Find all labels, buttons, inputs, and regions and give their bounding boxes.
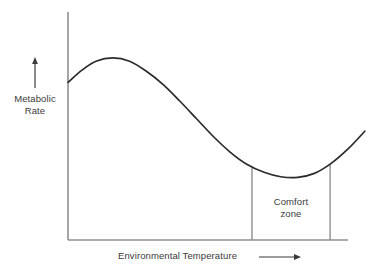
- arrow-right-icon: [259, 254, 301, 260]
- metabolic-rate-curve: [68, 58, 365, 178]
- y-axis-label: Metabolic Rate: [4, 93, 66, 116]
- comfort-zone-label-line2: zone: [252, 208, 330, 220]
- metabolic-rate-chart: Metabolic Rate Environmental Temperature…: [0, 0, 378, 269]
- comfort-zone-label: Comfort zone: [252, 196, 330, 219]
- comfort-zone-label-line1: Comfort: [252, 196, 330, 208]
- arrow-up-icon: [32, 57, 38, 88]
- y-axis-label-line2: Rate: [4, 105, 66, 117]
- y-axis-label-line1: Metabolic: [4, 93, 66, 105]
- x-axis-label: Environmental Temperature: [118, 250, 264, 262]
- chart-canvas: [0, 0, 378, 269]
